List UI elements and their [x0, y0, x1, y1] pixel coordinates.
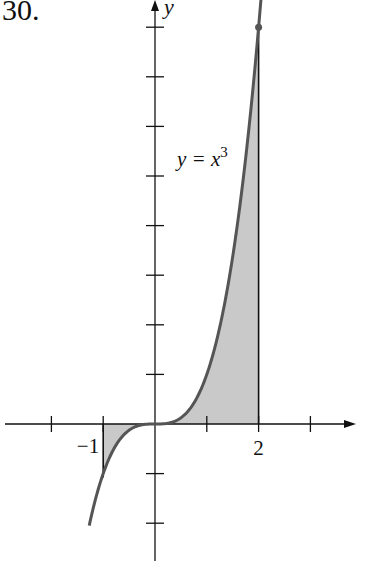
curve-label: y = x3 [175, 144, 228, 171]
x-tick-label: −1 [77, 434, 99, 458]
curve-label-text: y = x [175, 147, 221, 171]
x-axis-arrow-icon [344, 420, 356, 428]
y-axis-arrow-icon [151, 0, 159, 11]
marked-point [255, 24, 262, 31]
shaded-area-positive [155, 27, 259, 424]
cubic-area-plot: y y = x3 −12 [0, 0, 376, 579]
curve-label-exponent: 3 [220, 144, 228, 160]
x-tick-label: 2 [253, 436, 264, 460]
y-axis-label: y [162, 0, 174, 19]
